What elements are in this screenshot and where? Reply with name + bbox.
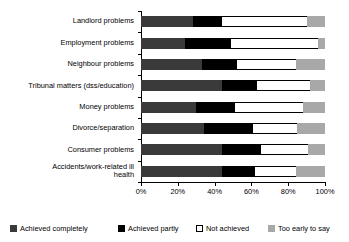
x-axis-tick [325,182,326,186]
plot-area: Landlord problemsEmployment problemsNeig… [0,0,349,196]
bar-segment [297,123,325,134]
bar-segment [196,102,235,113]
x-axis-tick [251,182,252,186]
legend-swatch [268,225,275,232]
category-label: Landlord problems [0,11,138,32]
bar-row [141,11,325,32]
legend-item[interactable]: Achieved completely [10,224,88,233]
bar-segment [193,16,222,27]
x-axis-tick-label: 60% [244,187,259,196]
bar-row [141,118,325,139]
bar-series-container [141,11,325,182]
bar-segment [141,102,196,113]
bar-row [141,75,325,96]
legend-swatch [10,225,17,232]
stacked-bar [141,38,325,49]
bar-segment [222,16,307,27]
bar-row [141,161,325,182]
x-axis-tick-label: 40% [207,187,222,196]
category-label: Consumer problems [0,139,138,160]
chart-legend: Achieved completelyAchieved partlyNot ac… [0,220,349,236]
bar-segment [141,59,202,70]
bar-row [141,32,325,53]
bar-segment [141,16,193,27]
x-axis-line [141,182,326,183]
legend-item[interactable]: Too early to say [268,224,330,233]
bar-segment [253,123,297,134]
bar-segment [185,38,231,49]
x-axis-tick-label: 0% [136,187,147,196]
bar-row [141,139,325,160]
bar-segment [307,16,325,27]
bar-segment [296,166,325,177]
x-axis-tick [288,182,289,186]
bar-segment [141,38,185,49]
stacked-bar [141,123,325,134]
bar-segment [231,38,317,49]
bar-segment [296,59,325,70]
bar-segment [222,80,257,91]
bar-segment [141,166,222,177]
legend-label: Not achieved [206,224,249,233]
x-axis-tick-label: 100% [316,187,335,196]
stacked-bar [141,102,325,113]
stacked-bar [141,16,325,27]
legend-item[interactable]: Achieved partly [118,224,179,233]
bar-segment [310,80,325,91]
x-axis-tick [178,182,179,186]
stacked-bar-chart: Landlord problemsEmployment problemsNeig… [0,0,349,242]
stacked-bar [141,59,325,70]
legend-label: Achieved completely [20,224,88,233]
bar-segment [202,59,237,70]
bar-segment [255,166,295,177]
category-label: Tribunal matters (dss/education) [0,75,138,96]
x-axis-tick-label: 80% [281,187,296,196]
category-label: Divorce/separation [0,118,138,139]
bar-segment [303,102,325,113]
legend-swatch [196,225,203,232]
category-label: Neighbour problems [0,54,138,75]
category-label: Accidents/work-related ill health [0,161,138,182]
category-axis-labels: Landlord problemsEmployment problemsNeig… [0,11,138,182]
bar-segment [141,123,204,134]
bar-row [141,97,325,118]
category-label: Employment problems [0,32,138,53]
bar-segment [308,144,325,155]
x-axis-tick [215,182,216,186]
bar-segment [318,38,325,49]
bar-row [141,54,325,75]
stacked-bar [141,144,325,155]
category-label: Money problems [0,97,138,118]
legend-label: Achieved partly [128,224,179,233]
bar-segment [204,123,254,134]
bar-segment [237,59,296,70]
x-axis-tick [141,182,142,186]
bar-segment [235,102,303,113]
legend-item[interactable]: Not achieved [196,224,249,233]
x-axis-tick-label: 20% [170,187,185,196]
stacked-bar [141,166,325,177]
legend-swatch [118,225,125,232]
legend-label: Too early to say [278,224,330,233]
bar-segment [261,144,309,155]
bar-segment [141,144,222,155]
bar-segment [141,80,222,91]
bar-segment [257,80,310,91]
stacked-bar [141,80,325,91]
bar-segment [222,144,261,155]
bar-segment [222,166,255,177]
